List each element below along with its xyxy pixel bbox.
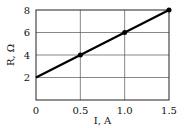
grid (36, 10, 169, 100)
x-tick-label: 1.0 (117, 105, 133, 116)
y-tick-label: 4 (24, 50, 30, 61)
y-tick-label: 6 (24, 27, 30, 38)
series-line (36, 10, 169, 78)
y-tick-label: 2 (24, 72, 30, 83)
x-tick-label: 1.5 (161, 105, 177, 116)
x-tick-label: 0 (33, 105, 39, 116)
chart: 00.51.01.5 2468 I, A R, Ω (0, 0, 185, 128)
data-point (78, 53, 83, 58)
y-tick-label: 8 (24, 5, 30, 16)
data-point (167, 8, 172, 13)
x-tick-label: 0.5 (72, 105, 88, 116)
data-point (122, 30, 127, 35)
x-axis-label: I, A (94, 115, 112, 126)
series (36, 8, 172, 78)
y-tick-labels: 2468 (24, 5, 30, 84)
y-axis-label: R, Ω (5, 44, 16, 66)
